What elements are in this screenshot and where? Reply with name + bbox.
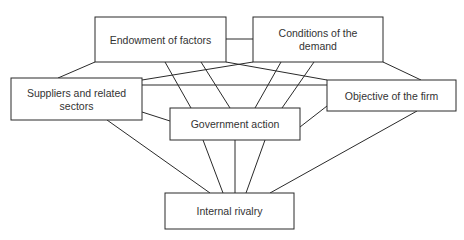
node-rivalry: Internal rivalry (165, 193, 294, 229)
node-label: Objective of the firm (345, 90, 439, 102)
node-label: Internal rivalry (197, 205, 264, 217)
node-suppliers: Suppliers and relatedsectors (11, 78, 142, 120)
edge-demand-suppliers (142, 62, 253, 80)
node-label: Conditions of the (279, 27, 358, 39)
node-government: Government action (170, 108, 300, 140)
edge-objective-government (300, 106, 327, 127)
node-label: demand (299, 40, 337, 52)
node-label: Government action (191, 118, 280, 130)
node-label: Endowment of factors (110, 34, 212, 46)
node-label: sectors (60, 100, 94, 112)
diagram-canvas: Endowment of factorsConditions of thedem… (0, 0, 464, 240)
edge-endowment-suppliers (58, 62, 95, 78)
node-endowment: Endowment of factors (95, 17, 226, 62)
nodes-layer: Endowment of factorsConditions of thedem… (11, 17, 456, 229)
edge-government-rivalry (203, 140, 223, 193)
edge-government-rivalry (246, 140, 265, 193)
edge-demand-objective (383, 62, 421, 80)
edge-suppliers-government (142, 112, 170, 121)
node-objective: Objective of the firm (327, 80, 456, 111)
node-label: Suppliers and related (27, 87, 126, 99)
node-demand: Conditions of thedemand (253, 17, 383, 62)
